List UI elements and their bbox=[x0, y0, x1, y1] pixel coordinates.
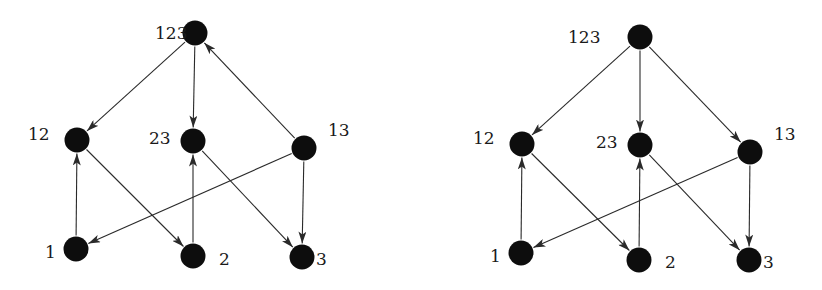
node-label-2: 2 bbox=[219, 249, 230, 269]
node-2 bbox=[627, 248, 652, 273]
edge-13-to-1 bbox=[533, 157, 737, 247]
node-label-1: 1 bbox=[45, 242, 56, 262]
edge-13-to-123 bbox=[204, 43, 294, 138]
edge-13-to-1 bbox=[88, 154, 291, 244]
node-label-123: 123 bbox=[155, 23, 187, 43]
edge-123-to-12 bbox=[532, 46, 630, 135]
node-23 bbox=[181, 129, 206, 154]
lattice-diagram-left: 123122313123 bbox=[28, 21, 350, 270]
lattice-diagram-right: 123122313123 bbox=[473, 25, 796, 273]
node-3 bbox=[290, 245, 315, 270]
node-13 bbox=[738, 140, 763, 165]
node-label-12: 12 bbox=[28, 124, 50, 144]
node-23 bbox=[628, 133, 653, 158]
edge-123-to-12 bbox=[87, 42, 185, 131]
node-13 bbox=[292, 136, 317, 161]
node-label-23: 23 bbox=[596, 132, 618, 152]
node-label-3: 3 bbox=[316, 249, 327, 269]
node-label-23: 23 bbox=[149, 128, 171, 148]
node-12 bbox=[65, 128, 90, 153]
diagram-canvas: 123122313123 123122313123 bbox=[0, 0, 822, 290]
node-group bbox=[509, 25, 763, 273]
edge-123-to-23 bbox=[193, 47, 195, 128]
node-2 bbox=[181, 244, 206, 269]
node-123 bbox=[628, 25, 653, 50]
node-1 bbox=[64, 237, 89, 262]
node-label-3: 3 bbox=[763, 252, 774, 272]
node-3 bbox=[737, 248, 762, 273]
node-label-12: 12 bbox=[473, 128, 495, 148]
edge-12-to-2 bbox=[532, 154, 630, 251]
edge-13-to-3 bbox=[302, 162, 304, 244]
edge-23-to-3 bbox=[202, 151, 293, 247]
edge-123-to-13 bbox=[649, 47, 740, 142]
node-label-123: 123 bbox=[568, 27, 600, 47]
node-label-2: 2 bbox=[665, 252, 676, 272]
edge-2-to-23 bbox=[639, 159, 640, 247]
edge-12-to-2 bbox=[87, 150, 184, 247]
edge-23-to-3 bbox=[649, 155, 739, 250]
edge-1-to-12 bbox=[521, 158, 522, 240]
node-12 bbox=[510, 132, 535, 157]
node-label-1: 1 bbox=[490, 246, 501, 266]
node-1 bbox=[509, 241, 534, 266]
edge-13-to-3 bbox=[749, 166, 750, 247]
node-label-13: 13 bbox=[774, 124, 796, 144]
node-label-13: 13 bbox=[328, 120, 350, 140]
edge-1-to-12 bbox=[76, 154, 77, 236]
